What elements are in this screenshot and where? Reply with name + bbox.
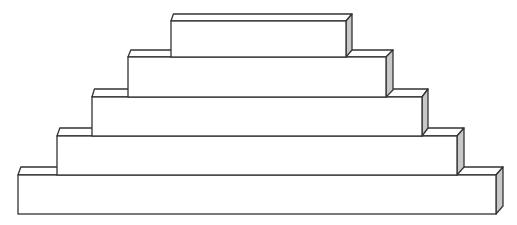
pyramid-diagram xyxy=(0,0,517,225)
block-side-face xyxy=(457,128,464,175)
block-front-face xyxy=(128,57,386,97)
block-front-face xyxy=(57,136,457,175)
stacked-blocks-svg xyxy=(0,0,517,225)
block-side-face xyxy=(346,14,352,57)
block-top-face xyxy=(171,14,352,21)
block-front-face xyxy=(18,175,496,214)
block-side-face xyxy=(386,50,393,97)
block-side-face xyxy=(422,89,428,136)
block-front-face xyxy=(92,97,422,136)
block-front-face xyxy=(171,21,346,57)
block-side-face xyxy=(496,167,503,214)
level-5-top-block xyxy=(171,14,352,57)
